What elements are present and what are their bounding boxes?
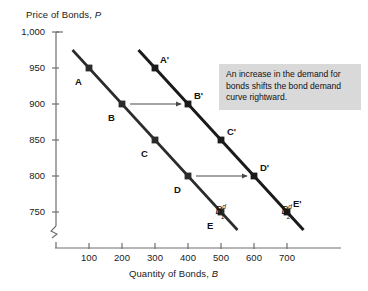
- data-point-marker: [218, 137, 225, 144]
- y-axis-tick-label: 1,000: [5, 26, 45, 37]
- y-axis-tick-label: 850: [5, 134, 45, 145]
- y-axis-tick-label: 750: [5, 206, 45, 217]
- x-axis-tick-label: 400: [170, 252, 206, 263]
- data-point-marker: [152, 137, 159, 144]
- x-axis-title-symbol: B: [212, 268, 218, 279]
- x-axis-tick-label: 300: [137, 252, 173, 263]
- data-point-label: C: [141, 148, 148, 159]
- curve-label-subscript: 1: [221, 213, 225, 220]
- x-axis-tick-label: 500: [203, 252, 239, 263]
- y-axis-break-symbol: [51, 226, 57, 238]
- curve-label-B1d: Bd1: [216, 204, 230, 218]
- x-axis-tick-label: 200: [104, 252, 140, 263]
- y-axis-tick-label: 800: [5, 170, 45, 181]
- x-axis-tick-label: 100: [71, 252, 107, 263]
- y-axis-tick-label: 900: [5, 98, 45, 109]
- data-point-marker: [86, 65, 93, 72]
- data-point-marker: [251, 173, 258, 180]
- y-axis-tick-label: 950: [5, 62, 45, 73]
- curve-label-superscript: d: [288, 203, 292, 210]
- data-point-label: A: [75, 76, 82, 87]
- data-point-marker: [119, 101, 126, 108]
- data-point-marker: [185, 173, 192, 180]
- data-point-label: B: [108, 112, 115, 123]
- data-point-label: C': [227, 126, 236, 137]
- data-point-label: D': [260, 162, 269, 173]
- data-point-marker: [185, 101, 192, 108]
- chart-plot-area: [0, 0, 368, 291]
- curve-label-subscript: 2: [287, 213, 291, 220]
- x-axis-tick-label: 600: [236, 252, 272, 263]
- y-axis-title-symbol: P: [95, 9, 101, 20]
- y-axis-title-text: Price of Bonds,: [26, 9, 92, 20]
- data-point-marker: [152, 65, 159, 72]
- y-axis-title: Price of Bonds, P: [26, 9, 101, 20]
- x-axis-title: Quantity of Bonds, B: [129, 268, 218, 279]
- annotation-callout: An increase in the demand for bonds shif…: [219, 64, 361, 110]
- bond-demand-shift-figure: Price of Bonds, P Quantity of Bonds, B A…: [0, 0, 368, 291]
- data-point-label: A': [160, 54, 169, 65]
- data-point-label: B': [194, 90, 203, 101]
- curve-label-B2d: Bd2: [282, 204, 296, 218]
- x-axis-tick-label: 700: [269, 252, 305, 263]
- data-point-label: D: [174, 184, 181, 195]
- annotation-text: An increase in the demand for bonds shif…: [226, 69, 354, 104]
- x-axis-title-text: Quantity of Bonds,: [129, 268, 209, 279]
- data-point-label: E: [207, 220, 213, 231]
- curve-label-superscript: d: [222, 203, 226, 210]
